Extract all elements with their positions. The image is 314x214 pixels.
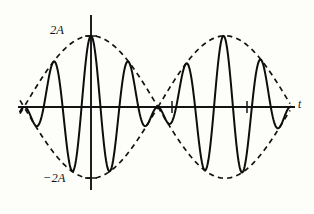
beats-waveform-figure: 2A −2A t	[0, 0, 314, 214]
y-axis-label-negative-2a: −2A	[43, 172, 65, 185]
y-axis-label-2a: 2A	[50, 24, 64, 37]
x-axis-label-t: t	[298, 99, 301, 111]
envelope-lower-curve-right	[158, 107, 290, 178]
resultant-wave-curve	[20, 36, 291, 173]
